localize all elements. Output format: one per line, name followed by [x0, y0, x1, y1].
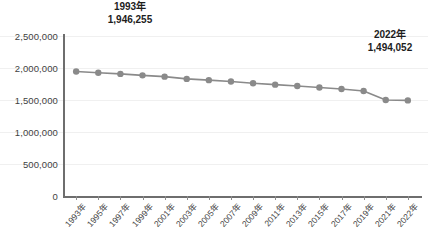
- x-tick-label: 2017年: [327, 200, 355, 229]
- x-tick-label: 2007年: [216, 200, 244, 229]
- x-axis-line: [63, 196, 422, 198]
- data-point-marker: [360, 88, 366, 94]
- data-point-marker: [73, 68, 79, 74]
- data-point-marker: [272, 81, 278, 87]
- data-point-marker: [139, 72, 145, 78]
- series-polyline: [76, 71, 408, 100]
- x-tick: [408, 196, 409, 200]
- x-tick-label: 1997年: [106, 200, 134, 229]
- x-tick: [187, 196, 188, 200]
- x-tick-label: 1995年: [84, 200, 112, 229]
- x-tick-label: 2001年: [150, 200, 178, 229]
- annotation-end-year: 2022年: [352, 29, 428, 42]
- x-tick: [364, 196, 365, 200]
- y-axis-line: [63, 34, 65, 198]
- data-point-marker: [206, 77, 212, 83]
- line-chart: 2,500,000 2,000,000 1,500,000 1,000,000 …: [0, 0, 428, 236]
- x-tick-label: 2021年: [371, 200, 399, 229]
- x-tick: [386, 196, 387, 200]
- data-point-marker: [338, 86, 344, 92]
- y-tick-label: 1,000,000: [0, 127, 58, 138]
- x-tick-label: 2022年: [393, 200, 421, 229]
- x-tick-label: 2019年: [349, 200, 377, 229]
- data-point-marker: [294, 83, 300, 89]
- x-tick: [165, 196, 166, 200]
- data-point-marker: [250, 80, 256, 86]
- x-tick: [98, 196, 99, 200]
- annotation-start-year: 1993年: [80, 1, 180, 14]
- x-tick-label: 2003年: [172, 200, 200, 229]
- y-tick-label: 1,500,000: [0, 95, 58, 106]
- x-tick-label: 2013年: [283, 200, 311, 229]
- annotation-end: 2022年 1,494,052: [352, 29, 428, 54]
- y-tick-label: 2,000,000: [0, 63, 58, 74]
- data-point-marker: [95, 70, 101, 76]
- y-tick-label: 2,500,000: [0, 31, 58, 42]
- data-point-marker: [161, 73, 167, 79]
- data-point-marker: [184, 76, 190, 82]
- x-tick-label: 2015年: [305, 200, 333, 229]
- x-tick: [253, 196, 254, 200]
- data-point-marker: [117, 71, 123, 77]
- annotation-start-value: 1,946,255: [80, 14, 180, 27]
- x-tick: [209, 196, 210, 200]
- data-point-marker: [228, 78, 234, 84]
- x-tick-label: 2005年: [194, 200, 222, 229]
- data-point-marker: [316, 84, 322, 90]
- y-tick-label: 0: [0, 191, 58, 202]
- x-tick: [143, 196, 144, 200]
- x-tick-label: 2011年: [261, 200, 288, 228]
- x-tick-label: 2009年: [238, 200, 266, 229]
- x-tick: [342, 196, 343, 200]
- x-tick: [319, 196, 320, 200]
- y-tick-label: 500,000: [0, 159, 58, 170]
- x-tick: [231, 196, 232, 200]
- x-tick: [120, 196, 121, 200]
- annotation-end-value: 1,494,052: [352, 42, 428, 55]
- x-tick-label: 1993年: [62, 200, 90, 229]
- x-tick: [275, 196, 276, 200]
- x-tick-label: 1999年: [128, 200, 156, 229]
- x-tick: [76, 196, 77, 200]
- annotation-start: 1993年 1,946,255: [80, 1, 180, 26]
- x-tick: [297, 196, 298, 200]
